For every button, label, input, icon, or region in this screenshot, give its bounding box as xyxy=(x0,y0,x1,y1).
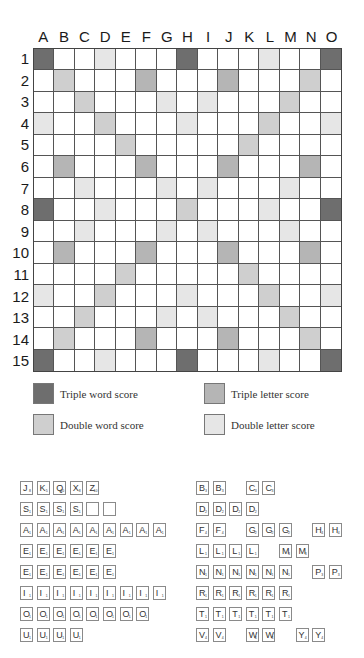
tile-points: 1 xyxy=(29,552,31,556)
tile-s: S1 xyxy=(53,502,66,516)
tile-points: 4 xyxy=(271,636,273,640)
tile-points: 1 xyxy=(222,573,224,577)
tile-points: 1 xyxy=(95,552,97,556)
tile-e: E1 xyxy=(70,544,83,558)
board-cell-A1 xyxy=(34,49,54,70)
row-label: 12 xyxy=(0,286,29,308)
board-cell-F15 xyxy=(136,350,156,371)
tile-o: O1 xyxy=(86,607,99,621)
board-cell-N13 xyxy=(300,307,320,328)
tile-n: N1 xyxy=(262,565,275,579)
column-label: H xyxy=(177,28,198,45)
tile-points: 1 xyxy=(288,573,290,577)
scrabble-board xyxy=(33,48,342,372)
tile-points: 1 xyxy=(238,552,240,556)
board-cell-K14 xyxy=(239,328,259,349)
tile-points: 1 xyxy=(46,594,48,598)
tile-b: B3 xyxy=(213,481,226,495)
board-cell-G14 xyxy=(157,328,177,349)
board-cell-O2 xyxy=(321,70,341,91)
board-cell-L13 xyxy=(259,307,279,328)
tile-points: 1 xyxy=(62,573,64,577)
legend-triple-word: Triple word score xyxy=(33,383,138,404)
board-cell-B4 xyxy=(54,113,74,134)
tile-points: 3 xyxy=(305,552,307,556)
tile-points: 1 xyxy=(255,615,257,619)
tile-points: 2 xyxy=(255,510,257,514)
board-cell-M6 xyxy=(280,156,300,177)
tile-points: 2 xyxy=(205,510,207,514)
tile-r: R1 xyxy=(213,586,226,600)
row-label: 10 xyxy=(0,242,29,264)
tile-points: 1 xyxy=(62,510,64,514)
board-cell-D12 xyxy=(95,285,115,306)
tile-points: 1 xyxy=(129,531,131,535)
board-cell-I14 xyxy=(198,328,218,349)
board-cell-B13 xyxy=(54,307,74,328)
tile-o: O1 xyxy=(53,607,66,621)
column-label: C xyxy=(74,28,95,45)
tile-points: 1 xyxy=(79,510,81,514)
tile-r: R1 xyxy=(229,586,242,600)
tile-letter: I xyxy=(56,588,59,598)
board-cell-L14 xyxy=(259,328,279,349)
board-cell-I10 xyxy=(198,242,218,263)
board-cell-G1 xyxy=(157,49,177,70)
tile-points: 1 xyxy=(129,594,131,598)
tile-points: 1 xyxy=(62,615,64,619)
board-cell-I11 xyxy=(198,264,218,285)
board-cell-A8 xyxy=(34,199,54,220)
board-cell-B5 xyxy=(54,135,74,156)
tile-i: I1 xyxy=(20,586,33,600)
tile-points: 2 xyxy=(271,531,273,535)
board-cell-L15 xyxy=(259,350,279,371)
board-cell-K3 xyxy=(239,92,259,113)
board-cell-H1 xyxy=(177,49,197,70)
tile-letter: I xyxy=(156,588,159,598)
board-cell-C3 xyxy=(75,92,95,113)
tile-letter: I xyxy=(106,588,109,598)
tile-o: O1 xyxy=(136,607,149,621)
tile-letter: I xyxy=(139,588,142,598)
row-label: 6 xyxy=(0,156,29,178)
tile-a: A1 xyxy=(153,523,166,537)
tile-points: 10 xyxy=(60,489,64,493)
board-cell-N5 xyxy=(300,135,320,156)
board-cell-L8 xyxy=(259,199,279,220)
tile-points: 1 xyxy=(79,552,81,556)
double-word-swatch xyxy=(33,414,54,435)
legend-triple-letter: Triple letter score xyxy=(204,383,309,404)
board-cell-O1 xyxy=(321,49,341,70)
board-cell-J8 xyxy=(218,199,238,220)
board-cell-K1 xyxy=(239,49,259,70)
tile-a: A1 xyxy=(136,523,149,537)
board-cell-H8 xyxy=(177,199,197,220)
board-cell-O9 xyxy=(321,221,341,242)
tile-points: 3 xyxy=(288,552,290,556)
board-cell-G3 xyxy=(157,92,177,113)
tile-points: 4 xyxy=(222,636,224,640)
board-cell-D13 xyxy=(95,307,115,328)
board-cell-O7 xyxy=(321,178,341,199)
board-cell-G6 xyxy=(157,156,177,177)
tile-points: 1 xyxy=(145,615,147,619)
tile-w: W4 xyxy=(262,628,275,642)
tile-n: N1 xyxy=(246,565,259,579)
board-cell-K11 xyxy=(239,264,259,285)
tile-d: D2 xyxy=(229,502,242,516)
tile-points: 1 xyxy=(62,594,64,598)
column-label: F xyxy=(136,28,157,45)
board-cell-C9 xyxy=(75,221,95,242)
tile-letter: L xyxy=(249,546,254,556)
tile-letter: L xyxy=(232,546,237,556)
tile-points: 4 xyxy=(222,531,224,535)
tile-points: 1 xyxy=(29,615,31,619)
row-label: 15 xyxy=(0,350,29,372)
board-cell-J9 xyxy=(218,221,238,242)
board-cell-E8 xyxy=(116,199,136,220)
tile-points: 1 xyxy=(79,636,81,640)
tile-g: G2 xyxy=(262,523,275,537)
board-cell-M8 xyxy=(280,199,300,220)
board-cell-E6 xyxy=(116,156,136,177)
board-cell-F12 xyxy=(136,285,156,306)
